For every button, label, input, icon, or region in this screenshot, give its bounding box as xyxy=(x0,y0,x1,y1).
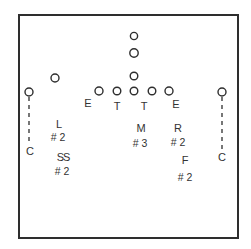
defense-strong-safety-number: # 2 xyxy=(55,166,70,177)
defense-middle-linebacker-number: # 3 xyxy=(133,138,148,149)
defense-end-right-label: E xyxy=(172,99,179,110)
defense-middle-linebacker-label: M xyxy=(136,123,145,134)
defense-free-safety-label: F xyxy=(182,155,189,166)
defense-right-linebacker-number: # 2 xyxy=(171,137,186,148)
offense-line-5-icon xyxy=(165,87,173,95)
defense-tackle-right-label: T xyxy=(141,101,148,112)
offense-wide-right-icon xyxy=(218,88,226,96)
defense-left-linebacker-number: # 2 xyxy=(51,132,66,143)
defense-left-linebacker-label: L xyxy=(56,119,62,130)
offense-center-icon xyxy=(130,87,138,95)
football-play-diagram: E T T E L # 2 SS # 2 M # 3 R # 2 F # 2 C… xyxy=(0,0,251,249)
defense-strong-safety-label: SS xyxy=(57,152,70,163)
offense-back-deep-icon xyxy=(130,32,137,39)
defense-right-corner-label: C xyxy=(218,152,226,163)
defense-left-corner-label: C xyxy=(26,146,34,157)
defense-end-left-label: E xyxy=(84,98,91,109)
offense-back-mid-icon xyxy=(130,49,138,57)
offense-wide-left-icon xyxy=(25,88,33,96)
defense-right-linebacker-label: R xyxy=(174,123,182,134)
offense-line-2-icon xyxy=(113,87,121,95)
offense-quarterback-icon xyxy=(130,72,138,80)
offense-line-1-icon xyxy=(95,87,103,95)
defense-free-safety-number: # 2 xyxy=(178,172,193,183)
offense-flanker-icon xyxy=(51,74,59,82)
offense-line-4-icon xyxy=(148,87,156,95)
defense-tackle-left-label: T xyxy=(114,101,121,112)
formation-graphics xyxy=(0,0,251,249)
